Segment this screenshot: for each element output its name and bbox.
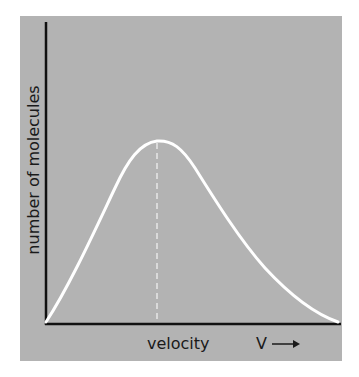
distribution-chart (0, 0, 359, 377)
v-symbol-label: V (256, 334, 267, 353)
y-axis-label: number of molecules (20, 20, 46, 320)
x-axis-label: velocity (147, 334, 210, 353)
distribution-curve (46, 141, 338, 322)
y-axis-label-text: number of molecules (24, 85, 43, 254)
arrow-right-icon (293, 340, 300, 348)
